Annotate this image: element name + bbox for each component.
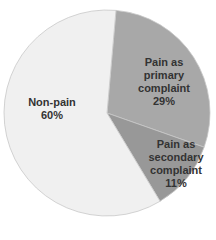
label-value: 29% [128, 95, 200, 108]
label-line: Pain as [128, 56, 200, 69]
label-value: 11% [136, 177, 216, 190]
label-line: Non-pain [20, 96, 84, 109]
label-line: complaint [136, 164, 216, 177]
label-value: 60% [20, 109, 84, 122]
label-line: complaint [128, 82, 200, 95]
label-primary: Pain as primary complaint 29% [128, 56, 200, 108]
label-nonpain: Non-pain 60% [20, 96, 84, 122]
label-line: secondary [136, 151, 216, 164]
label-secondary: Pain as secondary complaint 11% [136, 138, 216, 190]
label-line: primary [128, 69, 200, 82]
label-line: Pain as [136, 138, 216, 151]
